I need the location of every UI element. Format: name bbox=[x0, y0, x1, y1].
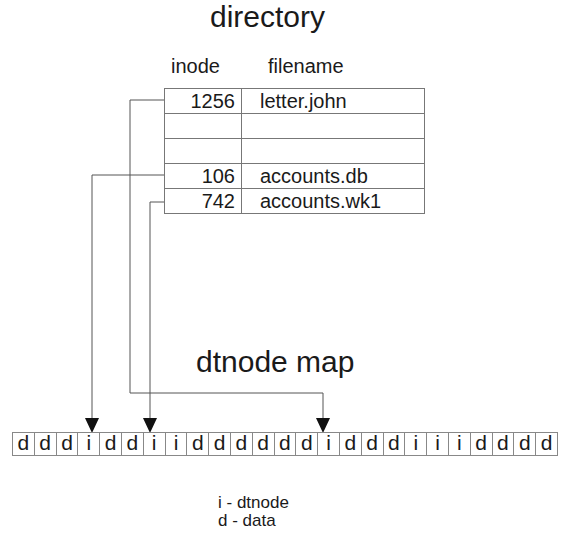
map-cell: d bbox=[492, 432, 515, 456]
pointer-arrows bbox=[0, 0, 566, 557]
map-cell: d bbox=[99, 432, 122, 456]
map-cell: d bbox=[230, 432, 253, 456]
map-cell: d bbox=[12, 432, 35, 456]
legend-data: d - data bbox=[218, 512, 276, 530]
map-cell: d bbox=[470, 432, 493, 456]
map-cell: d bbox=[186, 432, 209, 456]
map-cell: d bbox=[208, 432, 231, 456]
map-cell: d bbox=[295, 432, 318, 456]
legend-dtnode: i - dtnode bbox=[218, 494, 289, 512]
map-cell: d bbox=[34, 432, 57, 456]
map-cell: i bbox=[317, 432, 340, 456]
dtnode-map-title: dtnode map bbox=[196, 345, 354, 379]
map-cell: d bbox=[383, 432, 406, 456]
pointer-line-106 bbox=[92, 175, 164, 418]
map-cell: d bbox=[252, 432, 275, 456]
map-cell: i bbox=[426, 432, 449, 456]
pointer-line-742 bbox=[150, 202, 164, 418]
map-cell: i bbox=[448, 432, 471, 456]
map-cell: d bbox=[513, 432, 536, 456]
map-cell: i bbox=[77, 432, 100, 456]
map-cell: i bbox=[143, 432, 166, 456]
map-cell: d bbox=[121, 432, 144, 456]
map-cell: d bbox=[339, 432, 362, 456]
map-cell: d bbox=[56, 432, 79, 456]
map-cell: d bbox=[274, 432, 297, 456]
dtnode-map: d d d i d d i i d d d d d d i d d d i i … bbox=[12, 432, 557, 456]
map-cell: i bbox=[404, 432, 427, 456]
map-cell: d bbox=[535, 432, 558, 456]
map-cell: i bbox=[165, 432, 188, 456]
map-cell: d bbox=[361, 432, 384, 456]
